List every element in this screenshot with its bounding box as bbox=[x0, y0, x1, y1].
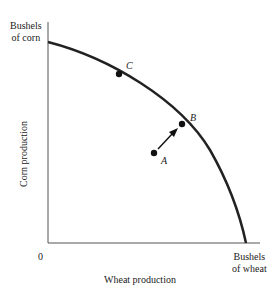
point-c bbox=[116, 71, 122, 77]
point-a bbox=[151, 150, 157, 156]
arrow-a-to-b bbox=[158, 133, 173, 149]
origin-label: 0 bbox=[38, 251, 43, 263]
x-end-line1: Bushels bbox=[232, 251, 267, 263]
y-end-line2: of corn bbox=[10, 32, 42, 44]
y-axis-end-label: Bushels of corn bbox=[10, 20, 42, 44]
y-end-line1: Bushels bbox=[10, 20, 42, 32]
x-axis-end-label: Bushels of wheat bbox=[232, 251, 267, 275]
x-end-line2: of wheat bbox=[232, 263, 267, 275]
point-b-label: B bbox=[190, 112, 196, 123]
point-c-label: C bbox=[126, 60, 133, 71]
y-axis-title: Corn production bbox=[18, 114, 30, 194]
x-axis-title: Wheat production bbox=[104, 274, 176, 286]
point-a-label: A bbox=[161, 155, 167, 166]
point-b bbox=[179, 121, 185, 127]
ppf-curve bbox=[48, 42, 246, 243]
ppf-diagram bbox=[0, 0, 278, 289]
